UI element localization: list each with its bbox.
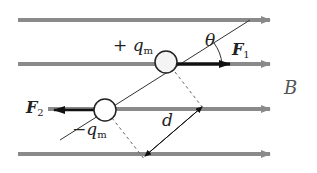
force-symbol: F	[232, 40, 243, 59]
force1-label: F1	[232, 42, 250, 60]
negative-charge-circle	[94, 99, 116, 121]
positive-sign: +	[113, 35, 127, 55]
charge-subscript: m	[97, 129, 106, 140]
angle-label: θ	[205, 32, 215, 49]
charge-symbol: q	[86, 119, 97, 139]
positive-charge-circle	[155, 51, 177, 73]
force2-label: F2	[26, 100, 44, 118]
field-label: B	[284, 79, 297, 97]
force-subscript: 1	[243, 49, 249, 60]
magnetic-dipole-diagram: + qm −qm θ F1 F2 B d	[0, 0, 317, 173]
force-symbol: F	[26, 98, 37, 117]
positive-charge-label: + qm	[113, 37, 153, 56]
negative-sign: −	[72, 119, 86, 139]
negative-charge-label: −qm	[72, 121, 107, 140]
charge-symbol: q	[133, 35, 144, 55]
dashed-perpendicular-top	[175, 72, 203, 108]
force-subscript: 2	[37, 107, 43, 118]
diagram-graphics	[0, 0, 317, 173]
distance-label: d	[162, 112, 173, 129]
charge-subscript: m	[144, 45, 153, 56]
distance-arrow-tail	[145, 107, 202, 156]
